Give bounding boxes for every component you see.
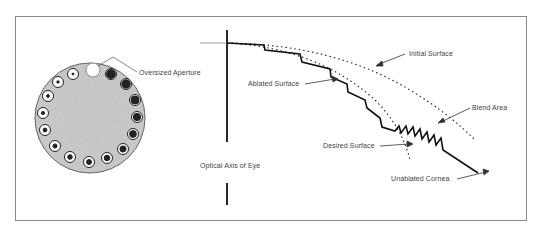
initial-surface-label: Initial Surface xyxy=(409,50,453,57)
ablated-surface-curve xyxy=(227,43,478,173)
optical-axis-label: Optical Axis of Eye xyxy=(200,162,260,169)
blend-area-label: Blend Area xyxy=(472,104,507,111)
ablated-surface-label: Ablated Surface xyxy=(248,80,299,87)
oversized-aperture xyxy=(86,63,100,77)
initial-surface-curve xyxy=(227,43,475,140)
desired-surface-label: Desired Surface xyxy=(323,142,375,149)
figure-drawing xyxy=(0,0,544,231)
desired-surface-curve xyxy=(227,43,410,160)
oversized-aperture-label: Oversized Aperture xyxy=(139,69,201,76)
unablated-cornea-label: Unablated Cornea xyxy=(391,175,449,182)
label-arrows xyxy=(305,54,489,179)
